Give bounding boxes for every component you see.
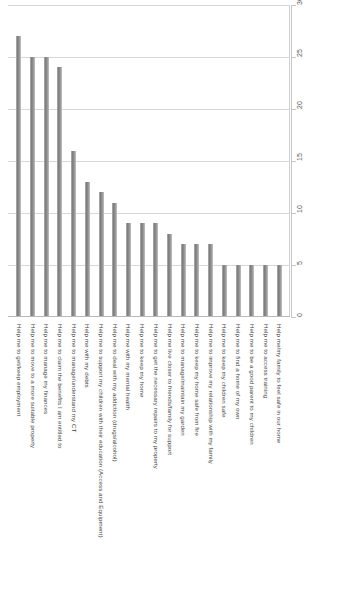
category-label: Help me to find a home of my own <box>235 324 241 420</box>
category-label: Help me to keep my children safe <box>221 324 227 417</box>
bar <box>153 223 158 317</box>
bar <box>44 57 49 317</box>
category-slot: Help me to manage my finances <box>39 320 53 602</box>
axis-tick-label: 20 <box>296 101 303 109</box>
category-label: Help me live closer to friends/family fo… <box>166 324 172 455</box>
bar-slot <box>218 5 232 317</box>
bar-series <box>8 5 290 317</box>
bar <box>57 67 62 317</box>
bar <box>249 265 254 317</box>
category-label: Help me with my debts <box>84 324 90 388</box>
bar-slot <box>94 5 108 317</box>
bar <box>112 203 117 317</box>
axis-tick <box>291 317 296 318</box>
bar-slot <box>272 5 286 317</box>
bar <box>208 244 213 317</box>
axis-tick <box>291 161 296 162</box>
axis-tick <box>291 109 296 110</box>
category-slot: Help me to get the necessary repairs to … <box>149 320 163 602</box>
category-label: Help me to access training <box>262 324 268 398</box>
category-slot: Help me to be a good parent to my childr… <box>245 320 259 602</box>
bar-slot <box>204 5 218 317</box>
bar <box>236 265 241 317</box>
category-slot: Help me live closer to friends/family fo… <box>163 320 177 602</box>
category-slot: Help me with my mental health <box>122 320 136 602</box>
bar-slot <box>122 5 136 317</box>
category-slot: Help me to manage/understand my CT <box>67 320 81 602</box>
bar-slot <box>12 5 26 317</box>
category-slot: Help me to find a home of my own <box>231 320 245 602</box>
category-label: Help me to get/keep employment <box>16 324 22 416</box>
axis-tick-label: 15 <box>296 153 303 161</box>
bar <box>140 223 145 317</box>
bar-slot <box>190 5 204 317</box>
category-slot: Help me to keep my home safe from fire <box>190 320 204 602</box>
bar <box>167 234 172 317</box>
category-label: Help me to be a good parent to my childr… <box>249 324 255 445</box>
category-slot: Help me to manage/maintain my garden <box>176 320 190 602</box>
category-label: Help me to keep my home safe from fire <box>194 324 200 436</box>
category-axis-labels: Help me to get/keep employmentHelp me to… <box>8 320 290 602</box>
bar-slot <box>163 5 177 317</box>
bar <box>99 192 104 317</box>
axis-tick-label: 0 <box>296 313 303 317</box>
axis-tick-label: 30 <box>296 0 303 5</box>
bar-chart: 051015202530 Help me to get/keep employm… <box>0 0 340 605</box>
bar-slot <box>53 5 67 317</box>
category-slot: Help me to access training <box>259 320 273 602</box>
bar-slot <box>149 5 163 317</box>
bar-slot <box>67 5 81 317</box>
axis-tick <box>291 5 296 6</box>
axis-tick <box>291 213 296 214</box>
category-slot: Help me to move to a more suitable prope… <box>26 320 40 602</box>
category-slot: Help me to claim the benefits I am entit… <box>53 320 67 602</box>
category-slot: Help me to keep my children safe <box>218 320 232 602</box>
value-axis: 051015202530 <box>291 5 311 317</box>
axis-tick <box>291 57 296 58</box>
x-axis-baseline <box>8 316 290 317</box>
category-label: Help me to claim the benefits I am entit… <box>57 324 63 448</box>
category-slot: Help me/my family to feel safe in our ho… <box>272 320 286 602</box>
axis-tick-label: 10 <box>296 205 303 213</box>
category-label: Help me to deal with my addiction (drugs… <box>112 324 118 462</box>
axis-tick <box>291 265 296 266</box>
bar <box>71 151 76 317</box>
category-label: Help me to improve my relationship with … <box>208 324 214 464</box>
bar <box>16 36 21 317</box>
category-label: Help me to get the necessary repairs to … <box>153 324 159 469</box>
category-label: Help me/my family to feel safe in our ho… <box>276 324 282 443</box>
bar-slot <box>135 5 149 317</box>
bar-slot <box>245 5 259 317</box>
bar <box>222 265 227 317</box>
bar-slot <box>26 5 40 317</box>
axis-tick-label: 5 <box>296 261 303 265</box>
category-slot: Help me to support my children with thei… <box>94 320 108 602</box>
category-label: Help me to manage/understand my CT <box>71 324 77 432</box>
category-label: Help me to manage/maintain my garden <box>180 324 186 436</box>
bar <box>194 244 199 317</box>
category-slot: Help me with my debts <box>81 320 95 602</box>
bar <box>277 265 282 317</box>
category-slot: Help me to deal with my addiction (drugs… <box>108 320 122 602</box>
category-slot: Help me to improve my relationship with … <box>204 320 218 602</box>
category-label: Help me to manage my finances <box>43 324 49 414</box>
category-label: Help me to support my children with thei… <box>98 324 104 538</box>
category-label: Help me to keep my home <box>139 324 145 397</box>
bar <box>181 244 186 317</box>
plot-area <box>8 5 290 317</box>
category-slot: Help me to get/keep employment <box>12 320 26 602</box>
bar <box>126 223 131 317</box>
bar <box>30 57 35 317</box>
bar-slot <box>81 5 95 317</box>
category-label: Help me to move to a more suitable prope… <box>29 324 35 448</box>
bar-slot <box>108 5 122 317</box>
bar-slot <box>259 5 273 317</box>
bar <box>263 265 268 317</box>
bar-slot <box>231 5 245 317</box>
chart-plot-wrapper: 051015202530 Help me to get/keep employm… <box>0 0 340 605</box>
bar-slot <box>39 5 53 317</box>
bar-slot <box>176 5 190 317</box>
bar <box>85 182 90 317</box>
axis-tick-label: 25 <box>296 49 303 57</box>
category-slot: Help me to keep my home <box>135 320 149 602</box>
